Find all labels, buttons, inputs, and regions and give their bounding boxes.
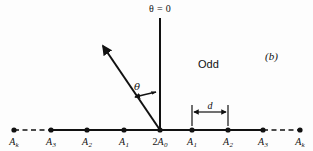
node-sub-left-1: 1 [125, 141, 129, 149]
node-sub-right-2: 2 [229, 141, 233, 149]
node-marker-right-2 [225, 127, 230, 132]
node-marker-left-k [11, 127, 16, 132]
theta-angle-arc [135, 92, 156, 97]
node-sub-right-3: 3 [264, 141, 268, 149]
node-marker-left-2 [84, 127, 89, 132]
node-sub-right-1: 1 [193, 141, 197, 149]
node-label-right-1: A1 [187, 137, 197, 149]
node-marker-right-k [297, 127, 302, 132]
diffracted-ray-diagonal [103, 46, 160, 130]
node-label-left-3: A3 [46, 137, 56, 149]
diagram-canvas [0, 0, 313, 151]
node-label-right-2: A2 [223, 137, 233, 149]
node-label-left-2: A2 [82, 137, 92, 149]
region-label-odd: Odd [198, 59, 219, 70]
node-label-center-0: 2A0 [153, 137, 168, 149]
angle-label-theta: θ [134, 82, 140, 92]
figure-diffraction-grating-odd: θ = 0 θ Odd (b) d Ak A3 A2 A1 2A0 A1 A2 … [0, 0, 313, 151]
node-marker-right-1 [189, 127, 194, 132]
node-sub-left-2: 2 [88, 141, 92, 149]
node-label-right-k: Ak [295, 137, 304, 149]
panel-label: (b) [265, 51, 278, 62]
node-marker-left-3 [48, 127, 53, 132]
node-sub-left-k: k [16, 141, 19, 149]
node-label-left-1: A1 [119, 137, 129, 149]
node-sub-center-0: 0 [164, 141, 168, 149]
dimension-label-d: d [208, 101, 213, 111]
node-sub-right-k: k [302, 141, 305, 149]
node-marker-left-1 [121, 127, 126, 132]
node-marker-right-3 [260, 127, 265, 132]
node-label-right-3: A3 [258, 137, 268, 149]
axis-label-theta-zero: θ = 0 [149, 4, 171, 14]
node-sub-left-3: 3 [52, 141, 56, 149]
node-label-left-k: Ak [9, 137, 18, 149]
